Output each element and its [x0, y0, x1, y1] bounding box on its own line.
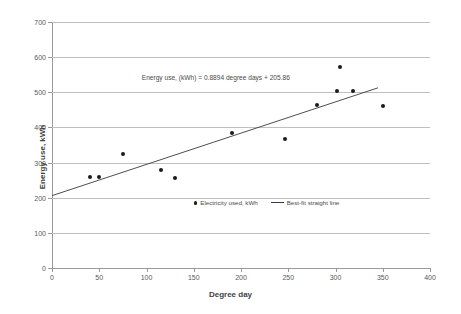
x-tick-label: 150 [188, 274, 200, 281]
chart-legend: Electricity used, kWh Best-fit straight … [194, 199, 340, 206]
data-point [159, 168, 163, 172]
x-tick-label: 250 [282, 274, 294, 281]
y-tick-label: 200 [34, 194, 46, 201]
x-tick-label: 200 [235, 274, 247, 281]
x-tick-mark [430, 268, 431, 272]
x-tick-mark [147, 268, 148, 272]
x-tick-label: 300 [330, 274, 342, 281]
x-tick-mark [288, 268, 289, 272]
data-point [283, 137, 287, 141]
x-tick-label: 350 [377, 274, 389, 281]
x-tick-label: 100 [141, 274, 153, 281]
x-tick-mark [99, 268, 100, 272]
x-tick-mark [383, 268, 384, 272]
y-tick-label: 700 [34, 19, 46, 26]
legend-item-label: Electricity used, kWh [200, 199, 257, 206]
x-tick-label: 400 [424, 274, 436, 281]
x-tick-mark [336, 268, 337, 272]
y-tick-label: 100 [34, 229, 46, 236]
y-tick-label: 300 [34, 159, 46, 166]
data-point [88, 175, 92, 179]
x-tick-label: 50 [95, 274, 103, 281]
x-axis-title: Degree day [0, 290, 461, 299]
legend-item-electricity: Electricity used, kWh [194, 199, 258, 206]
x-tick-label: 0 [50, 274, 54, 281]
regression-equation-annotation: Energy use, (kWh) = 0.8894 degree days +… [142, 74, 290, 81]
legend-item-best-fit: Best-fit straight line [271, 199, 340, 206]
data-point [351, 89, 355, 93]
data-point [97, 175, 101, 179]
data-point [381, 104, 385, 108]
y-tick-label: 500 [34, 89, 46, 96]
data-point [338, 65, 342, 69]
x-tick-mark [241, 268, 242, 272]
y-axis-title: Energy use, kWh [38, 125, 47, 189]
best-fit-line [52, 22, 430, 268]
plot-area: 0100200300400500600700 05010015020025030… [52, 22, 430, 268]
y-tick-label: 400 [34, 124, 46, 131]
x-tick-mark [52, 268, 53, 272]
y-tick-label: 0 [42, 265, 46, 272]
y-tick-label: 600 [34, 54, 46, 61]
x-tick-mark [194, 268, 195, 272]
data-point [335, 89, 339, 93]
data-point [315, 103, 319, 107]
legend-dot-marker-icon [194, 201, 198, 205]
data-point [173, 176, 177, 180]
data-point [230, 131, 234, 135]
energy-use-scatter-chart: Energy use, kWh 0100200300400500600700 0… [0, 0, 461, 314]
legend-item-label: Best-fit straight line [287, 199, 340, 206]
legend-line-marker-icon [271, 202, 284, 203]
data-point [121, 152, 125, 156]
